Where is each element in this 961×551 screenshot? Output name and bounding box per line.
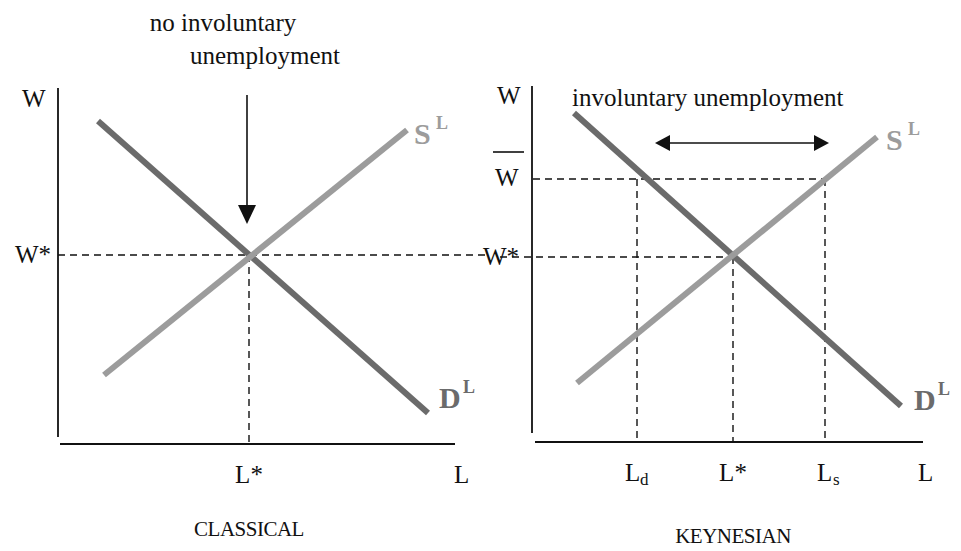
classical-annotation-line2: unemployment [190, 42, 340, 69]
classical-supply-letter: S [414, 117, 431, 150]
keynesian-y-axis-label: W [497, 82, 521, 109]
classical-demand-letter: D [439, 381, 461, 414]
keynesian-ls-subscript: s [833, 470, 840, 489]
keynesian-w-star-label: W* [483, 243, 519, 270]
keynesian-demand-superscript: L [938, 379, 950, 399]
classical-l-star-label: L* [235, 461, 263, 488]
keynesian-caption: KEYNESIAN [675, 524, 791, 548]
keynesian-ls-letter: L [817, 459, 832, 486]
keynesian-l-star-label: L* [719, 459, 747, 486]
classical-y-axis-label: W [22, 85, 46, 112]
classical-x-axis-label: L [454, 461, 469, 488]
classical-w-star-label: W* [15, 241, 51, 268]
classical-demand-superscript: L [463, 377, 475, 397]
keynesian-supply-superscript: L [908, 119, 920, 139]
keynesian-x-axis-label: L [918, 459, 933, 486]
keynesian-ld-subscript: d [640, 470, 649, 489]
keynesian-annotation: involuntary unemployment [572, 84, 844, 111]
keynesian-w-bar-letter: W [495, 164, 519, 191]
labor-market-diagram: no involuntary unemployment W W* L* L S … [0, 0, 961, 551]
classical-caption: CLASSICAL [194, 517, 304, 541]
classical-annotation-line1: no involuntary [150, 9, 297, 36]
keynesian-ld-letter: L [625, 459, 640, 486]
classical-supply-superscript: L [436, 113, 448, 133]
keynesian-supply-letter: S [886, 123, 903, 156]
keynesian-demand-letter: D [914, 383, 936, 416]
